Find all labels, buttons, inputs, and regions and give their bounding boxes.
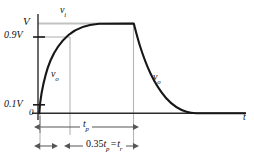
signal-label-output-falling: vo: [153, 72, 161, 85]
signal-label-input-subscript: i: [64, 11, 66, 18]
pulse-response-figure: V 0.9V 0.1V 0 t vi vo vo tp 0.35tp=tr: [0, 0, 254, 160]
signal-label-output-falling-subscript: o: [157, 78, 160, 85]
signal-label-output-rising-subscript: o: [55, 75, 58, 82]
y-tick-label-ten-percent: 0.1V: [4, 99, 23, 109]
figure-canvas: [0, 0, 254, 160]
x-axis-label-t: t: [243, 112, 246, 122]
dimension-label-rise-time-base-subscript: p: [106, 145, 109, 152]
axes: [32, 14, 246, 120]
dimension-label-rise-time: 0.35tp=tr: [83, 139, 126, 152]
dimension-label-rise-time-result-subscript: r: [120, 145, 123, 152]
y-tick-label-ninety-percent: 0.9V: [4, 30, 23, 40]
signal-label-output-rising: vo: [51, 69, 59, 82]
origin-label: 0: [29, 108, 34, 117]
y-axis-label-v: V: [23, 16, 30, 27]
dimension-label-pulse-width-subscript: p: [86, 125, 89, 132]
signal-label-input: vi: [60, 5, 66, 18]
dimension-label-rise-time-coefficient: 0.35: [86, 138, 104, 149]
dimension-label-pulse-width: tp: [80, 119, 92, 132]
